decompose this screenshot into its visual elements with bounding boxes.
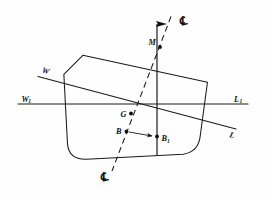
ship-stability-diagram: W L W 1 L 1 ℄ ℄ M — [0, 0, 269, 198]
centerline-symbol-top-icon: ℄ — [177, 13, 189, 29]
upright-waterline-port-subscript: 1 — [28, 98, 31, 104]
ship-centerline — [112, 17, 171, 172]
heeled-waterline-group: W L — [38, 66, 236, 140]
shifted-center-of-buoyancy-subscript: 1 — [167, 138, 170, 144]
buoyancy-shift-arrow — [129, 132, 152, 136]
point-marker-center-of-gravity — [129, 112, 133, 116]
center-of-gravity-label: G — [121, 110, 127, 119]
upright-waterline-group: W 1 L 1 — [18, 95, 248, 105]
point-marker-center-of-buoyancy — [125, 130, 129, 134]
upright-waterline-starboard-label: L — [233, 95, 239, 104]
heeled-waterline-starboard-label: L — [228, 130, 236, 140]
point-marker-shifted-center-of-buoyancy — [155, 135, 159, 139]
heeled-waterline-port-label: W — [41, 66, 51, 77]
buoyancy-shift-group — [129, 132, 152, 136]
metacenter-label: M — [148, 38, 157, 47]
centerline-symbol-bottom-icon: ℄ — [98, 169, 110, 185]
labelled-points-group: M G B B 1 — [115, 38, 170, 144]
ship-centerline-group: ℄ ℄ — [98, 13, 189, 185]
heeled-waterline — [38, 77, 236, 130]
upright-waterline-starboard-subscript: 1 — [239, 98, 242, 104]
center-of-buoyancy-label: B — [115, 127, 122, 136]
point-marker-metacenter — [158, 45, 162, 49]
stability-figure: W L W 1 L 1 ℄ ℄ M — [0, 0, 269, 198]
